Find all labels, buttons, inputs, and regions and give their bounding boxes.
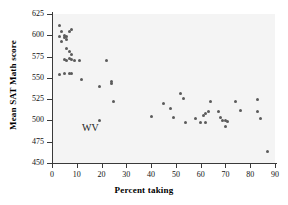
x-tick-mark [225,163,226,168]
x-tick-label: 20 [92,170,112,179]
data-point [259,117,262,120]
plot-area [52,14,275,163]
y-tick-mark [47,78,52,79]
y-tick-mark [47,14,52,15]
scatter-chart: 450475500525550575600625 010203040506070… [0,0,288,205]
data-point [239,109,242,112]
data-point [58,73,61,76]
x-tick-mark [250,163,251,168]
data-point [207,110,210,113]
x-tick-label: 0 [42,170,62,179]
y-tick-label: 575 [18,52,44,61]
x-tick-mark [102,163,103,168]
x-tick-label: 80 [240,170,260,179]
x-tick-mark [201,163,202,168]
data-point [266,150,269,153]
y-tick-label: 625 [18,9,44,18]
data-point [256,110,259,113]
x-tick-mark [275,163,276,168]
x-tick-label: 40 [141,170,161,179]
data-point [70,53,73,56]
y-tick-label: 450 [18,158,44,167]
x-tick-label: 60 [191,170,211,179]
data-point [162,102,165,105]
y-axis-line [52,12,53,165]
data-point [63,72,66,75]
x-tick-mark [151,163,152,168]
x-axis-line [50,163,277,164]
x-tick-mark [126,163,127,168]
y-tick-mark [47,35,52,36]
x-tick-label: 30 [116,170,136,179]
y-tick-mark [47,120,52,121]
x-tick-mark [77,163,78,168]
data-point [98,85,101,88]
y-tick-mark [47,142,52,143]
data-point [182,97,185,100]
x-axis-title: Percent taking [0,185,288,195]
data-point [172,116,175,119]
annotation-label: WV [82,122,99,133]
data-point [224,125,227,128]
data-point [204,121,207,124]
x-tick-label: 70 [215,170,235,179]
y-tick-mark [47,57,52,58]
y-tick-label: 600 [18,30,44,39]
y-tick-label: 475 [18,137,44,146]
x-tick-label: 10 [67,170,87,179]
y-tick-label: 500 [18,115,44,124]
y-tick-label: 525 [18,94,44,103]
x-tick-label: 90 [265,170,285,179]
x-tick-mark [52,163,53,168]
x-tick-mark [176,163,177,168]
y-tick-label: 550 [18,73,44,82]
data-point [217,110,220,113]
y-tick-mark [47,99,52,100]
y-axis-title: Mean SAT Math score [8,10,18,160]
data-point [150,115,153,118]
x-tick-label: 50 [166,170,186,179]
